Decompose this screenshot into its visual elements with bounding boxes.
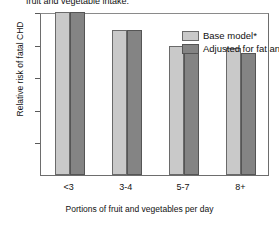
bar [226,48,241,175]
x-axis-title: Portions of fruit and vegetables per day [0,204,279,214]
legend-swatch-base-icon [182,31,199,41]
bar [112,30,127,175]
legend-label-adjusted: Adjusted for fat and fibre [203,43,279,54]
bar [55,12,70,175]
x-tick-label: 8+ [215,182,265,192]
bar [127,30,142,175]
x-tick-label: <3 [44,182,94,192]
bar [241,53,256,175]
x-tick-label: 5-7 [158,182,208,192]
chart-figure: fruit and vegetable intake. Relative ris… [0,0,279,229]
legend-swatch-adjusted-icon [182,44,199,54]
x-tick-label: 3-4 [101,182,151,192]
y-axis-title: Relative risk of fatal CHD [15,0,25,144]
bar [184,50,199,176]
legend-label-base: Base model* [203,30,257,41]
bar [70,12,85,175]
figure-caption: fruit and vegetable intake. [26,0,276,6]
plot-area: Base model* Adjusted for fat and fibre [40,13,269,176]
bar [169,46,184,175]
